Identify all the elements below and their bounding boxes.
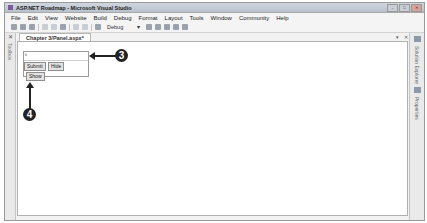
toolbox-sidebar[interactable]: ✕ Toolbox bbox=[5, 33, 16, 220]
properties-tab-icon bbox=[414, 87, 421, 93]
object-browser-icon[interactable] bbox=[182, 24, 188, 30]
main-area: ✕ Toolbox Chapter 3/Panel.aspx* ▾ ✕ li S… bbox=[5, 33, 424, 220]
properties-icon[interactable] bbox=[173, 24, 179, 30]
toolbar-separator bbox=[69, 24, 70, 31]
window-controls: – □ ✕ bbox=[387, 4, 424, 12]
document-controls: ▾ ✕ bbox=[396, 34, 408, 40]
menu-tools[interactable]: Tools bbox=[190, 15, 204, 21]
start-debugging-icon[interactable] bbox=[95, 24, 101, 30]
menu-file[interactable]: File bbox=[11, 15, 21, 21]
menu-debug[interactable]: Debug bbox=[114, 15, 132, 21]
toolbox-close-icon[interactable]: ✕ bbox=[5, 33, 15, 40]
menu-build[interactable]: Build bbox=[94, 15, 107, 21]
chevron-down-icon: ▾ bbox=[137, 24, 140, 30]
callout-4: 4 bbox=[23, 108, 36, 121]
copy-icon[interactable] bbox=[51, 24, 57, 30]
title-bar: ASP.NET Roadmap - Microsoft Visual Studi… bbox=[5, 3, 424, 13]
pin-icon[interactable]: ▾ bbox=[396, 34, 399, 40]
cut-icon[interactable] bbox=[42, 24, 48, 30]
solution-explorer-icon[interactable] bbox=[155, 24, 161, 30]
window-title: ASP.NET Roadmap - Microsoft Visual Studi… bbox=[16, 5, 132, 11]
solution-explorer-tab-icon bbox=[414, 36, 421, 42]
arrow-3-line bbox=[94, 55, 116, 57]
menu-window[interactable]: Window bbox=[211, 15, 232, 21]
menu-layout[interactable]: Layout bbox=[165, 15, 183, 21]
redo-icon[interactable] bbox=[82, 24, 88, 30]
tab-properties[interactable]: Properties bbox=[414, 97, 420, 120]
standard-toolbar: Debug ▾ bbox=[5, 22, 424, 33]
close-document-icon[interactable]: ✕ bbox=[404, 34, 408, 40]
submit-button[interactable]: Submit bbox=[24, 62, 46, 71]
close-button[interactable]: ✕ bbox=[411, 4, 422, 12]
configuration-value: Debug bbox=[107, 24, 123, 30]
save-icon[interactable] bbox=[20, 24, 26, 30]
menu-bar: File Edit View Website Build Debug Forma… bbox=[5, 13, 424, 22]
paste-icon[interactable] bbox=[60, 24, 66, 30]
new-project-icon[interactable] bbox=[11, 24, 17, 30]
hide-button[interactable]: Hide bbox=[48, 62, 64, 71]
undo-icon[interactable] bbox=[73, 24, 79, 30]
solution-configuration-combo[interactable]: Debug ▾ bbox=[104, 24, 143, 30]
visual-studio-icon bbox=[8, 5, 13, 10]
menu-view[interactable]: View bbox=[45, 15, 58, 21]
show-button[interactable]: Show bbox=[26, 72, 45, 81]
tab-solution-explorer[interactable]: Solution Explorer bbox=[414, 46, 420, 84]
menu-website[interactable]: Website bbox=[65, 15, 87, 21]
toolbar-separator bbox=[91, 24, 92, 31]
visual-studio-window: ASP.NET Roadmap - Microsoft Visual Studi… bbox=[4, 2, 425, 221]
panel-top-row: li bbox=[24, 52, 88, 61]
menu-format[interactable]: Format bbox=[139, 15, 158, 21]
callout-3: 3 bbox=[115, 49, 128, 62]
maximize-button[interactable]: □ bbox=[399, 4, 410, 12]
design-surface[interactable]: li Submit Hide Show 3 4 bbox=[17, 41, 408, 216]
menu-help[interactable]: Help bbox=[276, 15, 288, 21]
toolbox-label[interactable]: Toolbox bbox=[7, 43, 13, 60]
toolbar-separator bbox=[38, 24, 39, 31]
save-all-icon[interactable] bbox=[29, 24, 35, 30]
arrow-4-line bbox=[29, 87, 31, 109]
menu-edit[interactable]: Edit bbox=[28, 15, 38, 21]
minimize-button[interactable]: – bbox=[387, 4, 398, 12]
find-icon[interactable] bbox=[146, 24, 152, 30]
right-sidebar: Solution Explorer Properties bbox=[409, 33, 424, 220]
toolbox-icon[interactable] bbox=[164, 24, 170, 30]
menu-community[interactable]: Community bbox=[239, 15, 269, 21]
